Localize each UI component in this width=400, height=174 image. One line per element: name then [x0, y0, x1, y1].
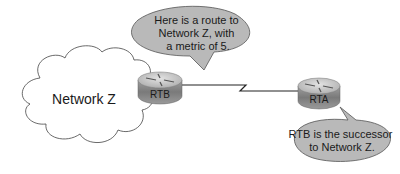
rtb-callout-text: Here is a route to Network Z, with a met… [154, 14, 241, 52]
network-z-cloud: Network Z [22, 46, 154, 143]
network-diagram: Network Z Here is a route to Network Z, … [0, 0, 400, 174]
router-rtb-label: RTB [150, 89, 170, 100]
rtb-callout-bubble: Here is a route to Network Z, with a met… [131, 6, 249, 70]
rta-callout-bubble: RTB is the successor to Network Z. [289, 107, 396, 161]
router-rtb-icon: RTB [138, 72, 182, 104]
cloud-label: Network Z [52, 91, 116, 107]
serial-link [182, 85, 300, 91]
router-rta-label: RTA [309, 94, 328, 105]
router-rta-icon: RTA [298, 78, 340, 109]
